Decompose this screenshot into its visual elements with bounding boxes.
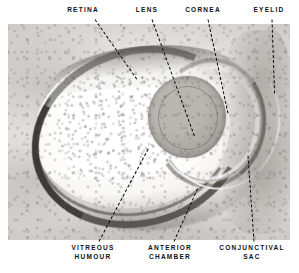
label-conjunctival-sac: CONJUNCTIVAL SAC — [219, 244, 284, 261]
label-lens: LENS — [136, 6, 158, 15]
label-anterior-chamber-line2: CHAMBER — [148, 253, 192, 262]
label-vitreous-humour: VITREOUS HUMOUR — [71, 244, 114, 261]
histology-plate — [8, 24, 290, 240]
label-anterior-chamber: ANTERIOR CHAMBER — [148, 244, 192, 261]
label-anterior-chamber-line1: ANTERIOR — [148, 244, 192, 253]
eye-section-figure: RETINA LENS CORNEA EYELID VITREOUS HUMOU… — [0, 0, 299, 273]
label-conjunctival-sac-line1: CONJUNCTIVAL — [219, 244, 284, 253]
label-vitreous-humour-line1: VITREOUS — [71, 244, 114, 253]
label-retina-text: RETINA — [67, 6, 99, 13]
label-eyelid-text: EYELID — [254, 6, 285, 13]
label-conjunctival-sac-line2: SAC — [219, 253, 284, 262]
section-grain — [8, 24, 290, 240]
label-retina: RETINA — [67, 6, 99, 15]
label-lens-text: LENS — [136, 6, 158, 13]
label-vitreous-humour-line2: HUMOUR — [71, 253, 114, 262]
label-cornea-text: CORNEA — [185, 6, 221, 13]
label-eyelid: EYELID — [254, 6, 285, 15]
label-cornea: CORNEA — [185, 6, 221, 15]
